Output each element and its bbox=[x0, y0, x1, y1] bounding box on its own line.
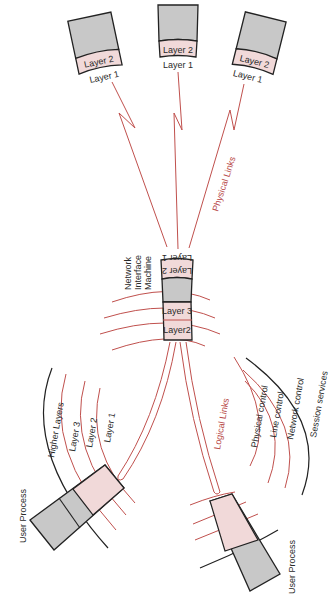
left-user-process: Higher Layers Layer 3 Layer 2 Layer 1 Us… bbox=[18, 368, 135, 550]
right-arc-label-session-services: Session services bbox=[308, 370, 330, 439]
left-arc-label-layer1: Layer 1 bbox=[102, 412, 117, 443]
network-layers-diagram: Layer 2 Layer 1 Layer 2 Layer 1 Layer 2 … bbox=[0, 0, 332, 610]
nim-arc-3 bbox=[100, 323, 220, 334]
nim-label-line2: Interface bbox=[133, 255, 143, 290]
nim-label-line3: Machine bbox=[143, 256, 153, 290]
nim-arc-2 bbox=[104, 308, 215, 318]
right-user-process-label: User Process bbox=[287, 539, 297, 594]
terminal-left-layer1-label: Layer 1 bbox=[88, 69, 119, 85]
logical-link-right bbox=[180, 342, 220, 494]
nim-arc-1 bbox=[112, 291, 210, 302]
network-interface-machine: Layer 2 Layer 1 Layer 3 Layer2 Network I… bbox=[100, 253, 220, 350]
logical-link-left bbox=[118, 342, 176, 480]
nim-layer3-label: Layer 3 bbox=[162, 306, 192, 316]
terminal-middle: Layer 2 Layer 1 bbox=[158, 5, 198, 70]
physical-link-middle bbox=[174, 72, 182, 249]
terminal-right: Layer 2 Layer 1 bbox=[229, 12, 286, 87]
terminal-middle-upper bbox=[158, 5, 198, 41]
physical-link-right bbox=[189, 84, 244, 248]
right-arc-label-line-control: Line control bbox=[268, 391, 286, 439]
left-user-process-label: User Process bbox=[18, 488, 28, 543]
right-process-pink bbox=[210, 494, 258, 551]
nim-upper-layer1-label: Layer 1 bbox=[162, 253, 192, 263]
right-user-process: Session services Network control Line co… bbox=[190, 357, 330, 594]
terminal-middle-layer2-label: Layer 2 bbox=[163, 45, 193, 55]
left-arc-label-layer2: Layer 2 bbox=[84, 417, 99, 448]
right-arc-label-physical-control: Physical control bbox=[249, 385, 270, 449]
nim-layer2-label: Layer2 bbox=[163, 325, 191, 335]
nim-gray-section bbox=[162, 278, 192, 303]
terminal-left: Layer 2 Layer 1 bbox=[68, 12, 125, 87]
physical-link-left bbox=[112, 82, 167, 247]
left-arc-label-layer3: Layer 3 bbox=[67, 421, 82, 452]
nim-upper-layer2-label: Layer 2 bbox=[162, 266, 192, 276]
terminal-right-layer1-label: Layer 1 bbox=[232, 68, 264, 85]
logical-links-label: Logical Links bbox=[212, 397, 231, 450]
right-arc-label-network-control: Network control bbox=[285, 377, 306, 440]
terminal-middle-layer1-label: Layer 1 bbox=[163, 60, 193, 70]
nim-label-line1: Network bbox=[123, 256, 133, 290]
